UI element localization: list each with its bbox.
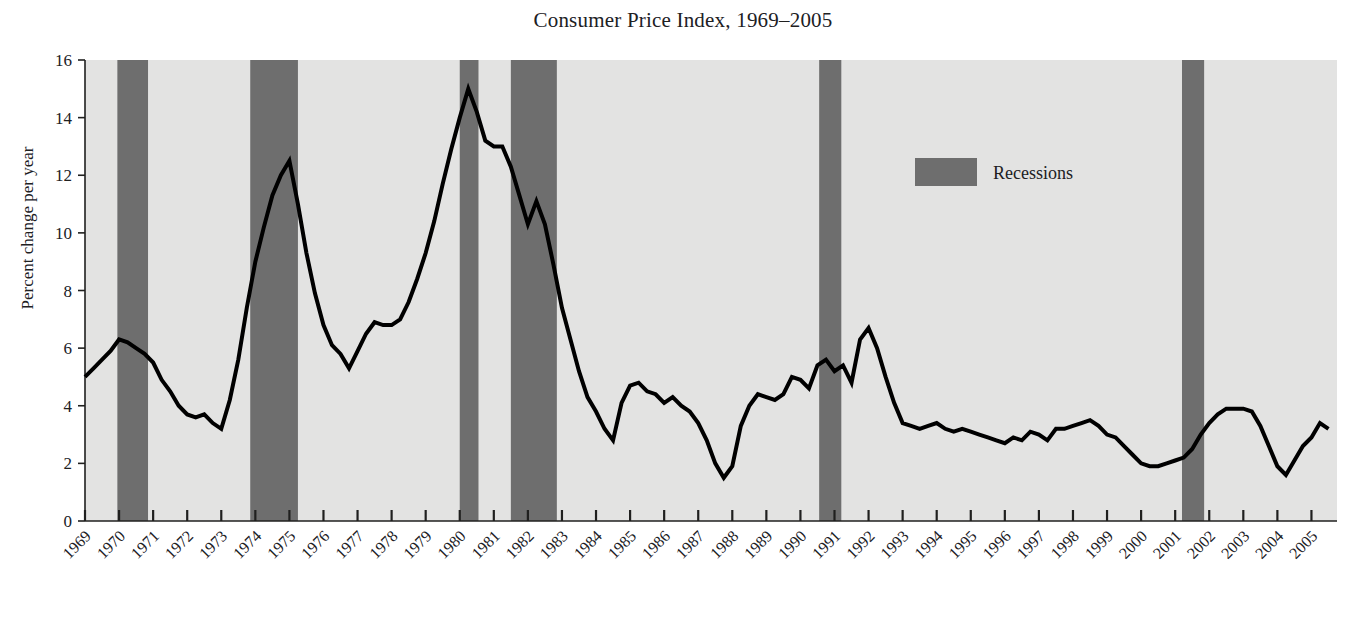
y-tick-label: 6 (64, 339, 73, 358)
cpi-chart-figure: Consumer Price Index, 1969–2005 Percent … (0, 0, 1366, 618)
x-tick-label: 1984 (570, 527, 605, 562)
y-tick-label: 14 (55, 109, 73, 128)
x-tick-label: 1993 (877, 527, 912, 562)
x-tick-label: 2003 (1218, 527, 1253, 562)
x-tick-label: 2005 (1286, 527, 1321, 562)
x-tick-label: 1972 (162, 527, 197, 562)
x-tick-label: 1989 (741, 527, 776, 562)
x-tick-label: 1976 (298, 527, 333, 562)
x-tick-label: 1998 (1047, 527, 1082, 562)
x-tick-label: 1981 (468, 527, 503, 562)
recession-band (511, 60, 557, 521)
chart-legend: Recessions (915, 158, 1073, 186)
recession-band (117, 60, 148, 521)
x-tick-label: 1991 (809, 527, 844, 562)
x-tick-label: 1973 (196, 527, 231, 562)
x-tick-label: 1970 (94, 527, 129, 562)
x-tick-label: 2000 (1116, 527, 1151, 562)
recession-band (250, 60, 298, 521)
x-tick-label: 1979 (400, 527, 435, 562)
x-tick-label: 1969 (59, 527, 94, 562)
x-tick-label: 1974 (230, 527, 265, 562)
y-tick-label: 0 (64, 512, 73, 531)
x-tick-label: 1997 (1013, 527, 1048, 562)
x-tick-label: 1987 (673, 527, 708, 562)
x-tick-label: 2001 (1150, 527, 1185, 562)
x-tick-label: 1985 (605, 527, 640, 562)
x-tick-label: 1971 (128, 527, 163, 562)
x-tick-label: 1982 (502, 527, 537, 562)
x-tick-label: 1983 (536, 527, 571, 562)
x-tick-label: 1975 (264, 527, 299, 562)
x-tick-label: 2002 (1184, 527, 1219, 562)
x-tick-label: 1992 (843, 527, 878, 562)
x-tick-label: 1996 (979, 527, 1014, 562)
x-tick-label: 1995 (945, 527, 980, 562)
x-tick-label: 2004 (1252, 527, 1287, 562)
x-tick-label: 1978 (366, 527, 401, 562)
legend-label: Recessions (993, 163, 1073, 183)
y-tick-label: 16 (55, 51, 72, 70)
y-tick-label: 8 (64, 282, 73, 301)
y-tick-label: 4 (64, 397, 73, 416)
legend-swatch (915, 158, 977, 186)
x-tick-label: 1986 (639, 527, 674, 562)
x-tick-label: 1999 (1082, 527, 1117, 562)
recession-band (1182, 60, 1204, 521)
recession-band (819, 60, 841, 521)
x-tick-label: 1994 (911, 527, 946, 562)
x-tick-label: 1977 (332, 527, 367, 562)
x-tick-label: 1988 (707, 527, 742, 562)
recession-band (460, 60, 479, 521)
x-tick-label: 1980 (434, 527, 469, 562)
y-tick-label: 12 (55, 166, 72, 185)
chart-plot-area: 0246810121416 19691970197119721973197419… (0, 0, 1366, 618)
y-tick-label: 2 (64, 454, 73, 473)
x-tick-label: 1990 (775, 527, 810, 562)
y-tick-label: 10 (55, 224, 72, 243)
